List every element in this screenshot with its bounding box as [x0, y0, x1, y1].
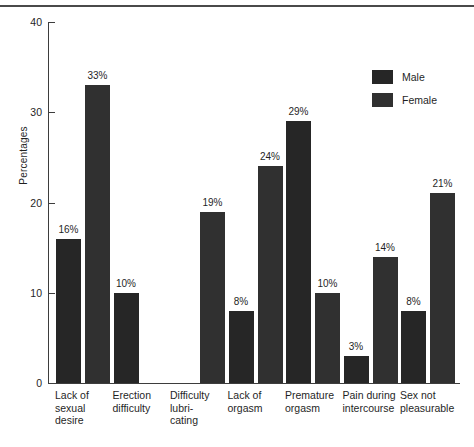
category-label-line: sexual	[55, 402, 117, 415]
bar-value-label-female-0: 33%	[77, 71, 118, 81]
category-label-line: Erection	[113, 389, 175, 402]
category-label-line: desire	[55, 414, 117, 427]
bar-male-5	[344, 356, 369, 383]
legend-swatch-female	[372, 93, 393, 107]
chart-page: Percentages 010203040 16%33%10%19%8%24%2…	[0, 0, 474, 447]
category-label-5: Pain duringintercourse	[343, 389, 405, 414]
y-tick-10	[48, 293, 55, 294]
legend-label-male: Male	[402, 72, 425, 83]
category-label-line: Pain during	[343, 389, 405, 402]
bar-female-0	[85, 85, 110, 383]
bar-value-label-male-6: 8%	[393, 297, 434, 307]
category-label-line: Premature	[285, 389, 347, 402]
bar-female-5	[373, 257, 398, 383]
y-tick-label-10: 10	[12, 288, 42, 298]
bar-value-label-female-4: 10%	[307, 279, 348, 289]
category-label-line: Sex not	[400, 389, 462, 402]
y-tick-20	[48, 203, 55, 204]
page-top-rule	[0, 5, 474, 7]
y-tick-label-30: 30	[12, 107, 42, 117]
category-label-0: Lack ofsexualdesire	[55, 389, 117, 427]
category-label-line: difficulty	[113, 402, 175, 415]
bar-value-label-female-2: 19%	[192, 198, 233, 208]
category-label-line: Lack of	[228, 389, 290, 402]
legend-item-female[interactable]: Female	[372, 93, 468, 107]
bar-value-label-female-6: 21%	[422, 179, 463, 189]
bar-value-label-male-4: 29%	[278, 107, 319, 117]
category-label-4: Prematureorgasm	[285, 389, 347, 414]
category-label-line: pleasurable	[400, 402, 462, 415]
bar-value-label-male-3: 8%	[221, 297, 262, 307]
bar-value-label-male-5: 3%	[336, 342, 377, 352]
category-label-2: Difficultylubri-cating	[170, 389, 232, 427]
category-label-line: Lack of	[55, 389, 117, 402]
bar-female-4	[315, 293, 340, 383]
y-tick-label-20: 20	[12, 198, 42, 208]
category-label-line: intercourse	[343, 402, 405, 415]
legend-swatch-male	[372, 70, 393, 84]
category-label-line: orgasm	[285, 402, 347, 415]
category-label-line: cating	[170, 414, 232, 427]
category-label-line: lubri-	[170, 402, 232, 415]
bar-male-6	[401, 311, 426, 383]
category-label-3: Lack oforgasm	[228, 389, 290, 414]
bar-value-label-male-0: 16%	[48, 225, 89, 235]
chart-legend: Male Female	[372, 70, 468, 116]
bar-value-label-male-1: 10%	[106, 279, 147, 289]
bar-male-3	[229, 311, 254, 383]
category-label-line: orgasm	[228, 402, 290, 415]
category-label-6: Sex notpleasurable	[400, 389, 462, 414]
bar-male-0	[56, 239, 81, 383]
x-axis-line	[48, 383, 460, 384]
category-label-line: Difficulty	[170, 389, 232, 402]
bar-male-4	[286, 121, 311, 383]
y-tick-40	[48, 22, 55, 23]
y-tick-30	[48, 112, 55, 113]
y-tick-0	[48, 383, 55, 384]
bar-value-label-female-5: 14%	[365, 243, 406, 253]
y-tick-label-0: 0	[12, 378, 42, 388]
bar-female-6	[430, 193, 455, 383]
bar-female-3	[258, 166, 283, 383]
category-label-1: Erectiondifficulty	[113, 389, 175, 414]
bar-value-label-female-3: 24%	[250, 152, 291, 162]
y-tick-label-40: 40	[12, 17, 42, 27]
legend-label-female: Female	[402, 95, 437, 106]
bar-male-1	[114, 293, 139, 383]
legend-item-male[interactable]: Male	[372, 70, 468, 84]
